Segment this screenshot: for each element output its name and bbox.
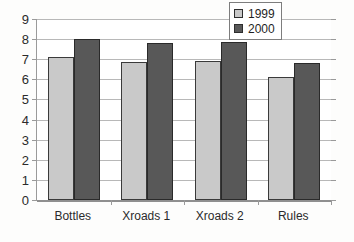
category-separator-2 — [184, 200, 185, 205]
y-tick-mark-1 — [32, 180, 37, 181]
x-axis-label-bottles: Bottles — [54, 210, 91, 222]
legend-item-1999: 1999 — [234, 6, 275, 21]
legend-swatch-1999-icon — [234, 9, 243, 18]
x-axis-label-xroads-1: Xroads 1 — [122, 210, 170, 222]
y-axis-tick-label-3: 3 — [22, 133, 29, 146]
y-tick-mark-0 — [32, 200, 37, 201]
y-tick-mark-3 — [32, 140, 37, 141]
y-tick-mark-right-5 — [331, 99, 336, 100]
bar-xroads-1-1999 — [121, 62, 147, 200]
y-axis-tick-label-2: 2 — [22, 153, 29, 166]
x-axis-label-xroads-2: Xroads 2 — [196, 210, 244, 222]
legend-item-2000: 2000 — [234, 21, 275, 36]
y-tick-mark-right-8 — [331, 39, 336, 40]
legend-label-1999: 1999 — [248, 8, 275, 20]
y-axis-tick-label-0: 0 — [22, 194, 29, 207]
legend-swatch-2000-icon — [234, 24, 243, 33]
bar-rules-1999 — [268, 77, 294, 200]
y-tick-mark-9 — [32, 19, 37, 20]
y-tick-mark-2 — [32, 160, 37, 161]
bar-bottles-1999 — [48, 57, 74, 200]
y-tick-mark-right-3 — [331, 140, 336, 141]
y-tick-mark-right-4 — [331, 120, 336, 121]
y-tick-mark-right-2 — [331, 160, 336, 161]
chart-legend: 1999 2000 — [229, 2, 282, 40]
y-axis-tick-label-7: 7 — [22, 53, 29, 66]
y-axis-tick-label-5: 5 — [22, 93, 29, 106]
y-axis-tick-label-6: 6 — [22, 73, 29, 86]
bar-xroads-2-1999 — [195, 61, 221, 200]
y-tick-mark-right-1 — [331, 180, 336, 181]
category-separator-1 — [111, 200, 112, 205]
y-axis-tick-label-1: 1 — [22, 173, 29, 186]
legend-label-2000: 2000 — [248, 23, 275, 35]
y-tick-mark-right-7 — [331, 59, 336, 60]
plot-area: 0123456789 — [36, 19, 331, 200]
y-axis-tick-label-8: 8 — [22, 33, 29, 46]
category-separator-3 — [258, 200, 259, 205]
y-tick-mark-right-6 — [331, 79, 336, 80]
bar-rules-2000 — [294, 63, 320, 200]
y-tick-mark-6 — [32, 79, 37, 80]
y-axis-tick-label-4: 4 — [22, 113, 29, 126]
y-tick-mark-5 — [32, 99, 37, 100]
category-separator-end — [331, 200, 332, 205]
y-tick-mark-4 — [32, 120, 37, 121]
y-tick-mark-7 — [32, 59, 37, 60]
y-axis-tick-label-9: 9 — [22, 13, 29, 26]
bar-xroads-2-2000 — [221, 42, 247, 200]
gridline-9 — [37, 19, 331, 20]
y-tick-mark-right-9 — [331, 19, 336, 20]
x-axis-label-rules: Rules — [278, 210, 309, 222]
bar-bottles-2000 — [74, 39, 100, 200]
bar-xroads-1-2000 — [147, 43, 173, 200]
y-tick-mark-8 — [32, 39, 37, 40]
bar-chart-figure: 0123456789 BottlesXroads 1Xroads 2Rules … — [0, 0, 354, 242]
